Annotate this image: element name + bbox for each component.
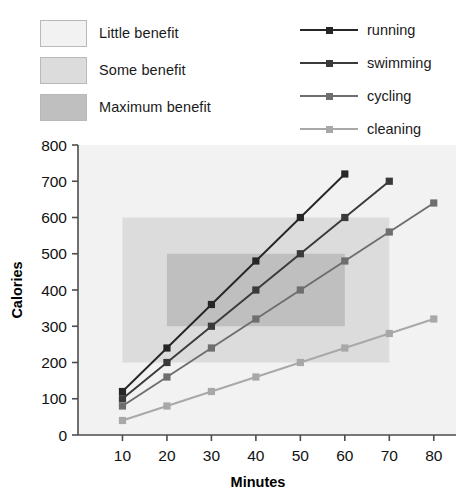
- data-point-running[interactable]: [341, 170, 348, 177]
- legend-label-maximum-benefit: Maximum benefit: [99, 99, 211, 115]
- legend-label-little-benefit: Little benefit: [99, 25, 179, 41]
- swatch-little-benefit: [40, 20, 87, 47]
- data-point-cycling[interactable]: [341, 257, 348, 264]
- legend-item-maximum-benefit: Maximum benefit: [40, 90, 211, 124]
- benefit-band-legend: Little benefit Some benefit Maximum bene…: [40, 16, 211, 127]
- data-point-cycling[interactable]: [208, 344, 215, 351]
- y-tick-label: 100: [41, 390, 67, 407]
- data-point-running[interactable]: [297, 214, 304, 221]
- data-point-cleaning[interactable]: [430, 315, 437, 322]
- data-point-running[interactable]: [208, 301, 215, 308]
- legend-item-swimming: swimming: [300, 49, 431, 77]
- legend-marker-running: [326, 27, 333, 34]
- legend-line-sample-cycling: [300, 90, 358, 102]
- data-point-cycling[interactable]: [252, 315, 259, 322]
- legend-label-running: running: [367, 22, 415, 38]
- x-tick-label: 30: [203, 447, 221, 464]
- legend-label-swimming: swimming: [367, 55, 431, 71]
- data-point-cycling[interactable]: [297, 286, 304, 293]
- legend-item-running: running: [300, 16, 431, 44]
- data-point-swimming[interactable]: [208, 323, 215, 330]
- data-point-cycling[interactable]: [119, 402, 126, 409]
- legend-line-sample-running: [300, 24, 358, 36]
- legend-marker-cycling: [326, 93, 333, 100]
- data-point-swimming[interactable]: [386, 178, 393, 185]
- data-point-running[interactable]: [252, 257, 259, 264]
- y-tick-label: 500: [41, 245, 67, 262]
- x-axis-title: Minutes: [231, 474, 286, 490]
- data-point-swimming[interactable]: [252, 286, 259, 293]
- y-tick-label: 200: [41, 354, 67, 371]
- legend-label-some-benefit: Some benefit: [99, 62, 186, 78]
- data-point-cleaning[interactable]: [297, 359, 304, 366]
- data-point-cleaning[interactable]: [252, 373, 259, 380]
- x-tick-label: 40: [247, 447, 265, 464]
- legend-marker-swimming: [326, 60, 333, 67]
- legend-item-cycling: cycling: [300, 82, 431, 110]
- data-point-swimming[interactable]: [163, 359, 170, 366]
- chart-container: 0100200300400500600700800102030405060708…: [0, 128, 464, 491]
- data-point-cycling[interactable]: [430, 199, 437, 206]
- y-tick-label: 800: [41, 137, 67, 154]
- legend-area: Little benefit Some benefit Maximum bene…: [0, 0, 464, 128]
- data-point-cleaning[interactable]: [163, 402, 170, 409]
- data-point-swimming[interactable]: [297, 250, 304, 257]
- swatch-some-benefit: [40, 57, 87, 84]
- y-tick-label: 600: [41, 209, 67, 226]
- y-tick-label: 0: [58, 427, 67, 444]
- data-point-cycling[interactable]: [163, 373, 170, 380]
- data-point-cleaning[interactable]: [208, 388, 215, 395]
- data-point-cleaning[interactable]: [119, 417, 126, 424]
- legend-label-cycling: cycling: [367, 88, 411, 104]
- data-point-swimming[interactable]: [119, 395, 126, 402]
- y-axis-title: Calories: [9, 261, 25, 318]
- x-tick-label: 80: [425, 447, 443, 464]
- x-tick-label: 10: [114, 447, 132, 464]
- x-tick-label: 60: [336, 447, 354, 464]
- x-tick-label: 70: [381, 447, 399, 464]
- data-point-cleaning[interactable]: [386, 330, 393, 337]
- x-tick-label: 20: [158, 447, 176, 464]
- data-point-running[interactable]: [163, 344, 170, 351]
- y-tick-label: 700: [41, 173, 67, 190]
- x-tick-label: 50: [292, 447, 310, 464]
- line-chart: 0100200300400500600700800102030405060708…: [0, 128, 464, 491]
- legend-item-little-benefit: Little benefit: [40, 16, 211, 50]
- data-point-running[interactable]: [119, 388, 126, 395]
- swatch-maximum-benefit: [40, 94, 87, 121]
- data-point-cycling[interactable]: [386, 228, 393, 235]
- y-tick-label: 300: [41, 318, 67, 335]
- data-point-cleaning[interactable]: [341, 344, 348, 351]
- y-tick-label: 400: [41, 282, 67, 299]
- legend-item-some-benefit: Some benefit: [40, 53, 211, 87]
- legend-line-sample-swimming: [300, 57, 358, 69]
- data-point-swimming[interactable]: [341, 214, 348, 221]
- chart-page: Little benefit Some benefit Maximum bene…: [0, 0, 464, 491]
